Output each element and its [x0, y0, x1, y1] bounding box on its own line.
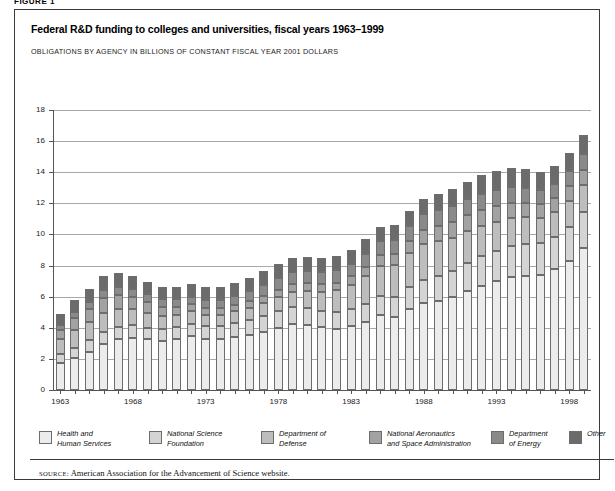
- bar-column[interactable]: [477, 110, 486, 390]
- bar-segment[interactable]: [201, 308, 210, 314]
- bar-segment[interactable]: [143, 328, 152, 340]
- bar-segment[interactable]: [507, 203, 516, 219]
- bar-segment[interactable]: [56, 363, 65, 390]
- bar-segment[interactable]: [477, 256, 486, 286]
- bar-segment[interactable]: [579, 154, 588, 170]
- bar-segment[interactable]: [216, 287, 225, 299]
- bar-segment[interactable]: [201, 326, 210, 339]
- bar-segment[interactable]: [492, 281, 501, 390]
- bar-segment[interactable]: [158, 316, 167, 329]
- bar-segment[interactable]: [288, 272, 297, 284]
- bar-segment[interactable]: [376, 227, 385, 242]
- bar-segment[interactable]: [376, 315, 385, 390]
- bar-segment[interactable]: [230, 296, 239, 305]
- bar-segment[interactable]: [187, 324, 196, 336]
- bar-segment[interactable]: [70, 330, 79, 348]
- bar-segment[interactable]: [158, 299, 167, 307]
- bar-segment[interactable]: [56, 314, 65, 325]
- bar-segment[interactable]: [419, 280, 428, 303]
- bar-segment[interactable]: [303, 308, 312, 325]
- bar-segment[interactable]: [463, 199, 472, 215]
- bar-segment[interactable]: [521, 276, 530, 390]
- bar-segment[interactable]: [99, 332, 108, 344]
- bar-segment[interactable]: [448, 206, 457, 222]
- bar-segment[interactable]: [274, 290, 283, 298]
- bar-segment[interactable]: [332, 329, 341, 390]
- bar-segment[interactable]: [419, 214, 428, 230]
- bar-segment[interactable]: [550, 166, 559, 184]
- bar-segment[interactable]: [521, 217, 530, 243]
- bar-column[interactable]: [187, 110, 196, 390]
- bar-segment[interactable]: [463, 215, 472, 231]
- bar-segment[interactable]: [201, 315, 210, 327]
- bar-column[interactable]: [274, 110, 283, 390]
- bar-segment[interactable]: [434, 210, 443, 226]
- bar-column[interactable]: [419, 110, 428, 390]
- bar-segment[interactable]: [492, 171, 501, 190]
- bar-segment[interactable]: [477, 226, 486, 256]
- bar-segment[interactable]: [274, 264, 283, 278]
- bar-segment[interactable]: [332, 270, 341, 282]
- bar-column[interactable]: [128, 110, 137, 390]
- bar-segment[interactable]: [230, 323, 239, 337]
- bar-segment[interactable]: [434, 301, 443, 390]
- bar-segment[interactable]: [201, 339, 210, 390]
- bar-segment[interactable]: [405, 309, 414, 390]
- bar-segment[interactable]: [99, 313, 108, 332]
- bar-segment[interactable]: [317, 258, 326, 272]
- bar-segment[interactable]: [332, 290, 341, 312]
- bar-segment[interactable]: [579, 135, 588, 154]
- bar-segment[interactable]: [376, 296, 385, 315]
- bar-segment[interactable]: [70, 300, 79, 312]
- bar-segment[interactable]: [477, 210, 486, 226]
- bar-segment[interactable]: [434, 194, 443, 210]
- bar-segment[interactable]: [550, 184, 559, 198]
- bar-segment[interactable]: [230, 305, 239, 311]
- bar-segment[interactable]: [579, 185, 588, 211]
- bar-segment[interactable]: [550, 237, 559, 270]
- bar-segment[interactable]: [565, 171, 574, 186]
- bar-column[interactable]: [536, 110, 545, 390]
- bar-segment[interactable]: [507, 187, 516, 203]
- bar-segment[interactable]: [259, 285, 268, 296]
- bar-segment[interactable]: [419, 303, 428, 390]
- bar-segment[interactable]: [114, 339, 123, 390]
- bar-segment[interactable]: [128, 325, 137, 337]
- bar-segment[interactable]: [463, 182, 472, 200]
- bar-segment[interactable]: [419, 244, 428, 280]
- bar-segment[interactable]: [448, 238, 457, 271]
- bar-segment[interactable]: [128, 309, 137, 325]
- bar-segment[interactable]: [259, 303, 268, 316]
- bar-segment[interactable]: [347, 285, 356, 309]
- bar-segment[interactable]: [114, 273, 123, 287]
- bar-column[interactable]: [347, 110, 356, 390]
- bar-segment[interactable]: [143, 282, 152, 294]
- bar-column[interactable]: [550, 110, 559, 390]
- bar-segment[interactable]: [172, 299, 181, 307]
- bar-column[interactable]: [245, 110, 254, 390]
- bar-segment[interactable]: [347, 264, 356, 276]
- bar-segment[interactable]: [85, 340, 94, 352]
- bar-segment[interactable]: [492, 190, 501, 206]
- bar-segment[interactable]: [405, 253, 414, 287]
- bar-segment[interactable]: [230, 337, 239, 390]
- bar-segment[interactable]: [99, 344, 108, 390]
- bar-column[interactable]: [70, 110, 79, 390]
- bar-segment[interactable]: [70, 312, 79, 318]
- bar-segment[interactable]: [143, 302, 152, 313]
- bar-segment[interactable]: [245, 308, 254, 320]
- bar-column[interactable]: [463, 110, 472, 390]
- bar-segment[interactable]: [303, 283, 312, 291]
- bar-segment[interactable]: [259, 271, 268, 285]
- bar-segment[interactable]: [158, 341, 167, 390]
- bar-segment[interactable]: [477, 194, 486, 210]
- bar-segment[interactable]: [507, 218, 516, 246]
- bar-segment[interactable]: [579, 248, 588, 390]
- bar-column[interactable]: [405, 110, 414, 390]
- bar-segment[interactable]: [448, 271, 457, 297]
- bar-segment[interactable]: [128, 338, 137, 390]
- bar-segment[interactable]: [419, 199, 428, 215]
- bar-segment[interactable]: [405, 241, 414, 253]
- bar-segment[interactable]: [201, 287, 210, 299]
- bar-segment[interactable]: [448, 222, 457, 238]
